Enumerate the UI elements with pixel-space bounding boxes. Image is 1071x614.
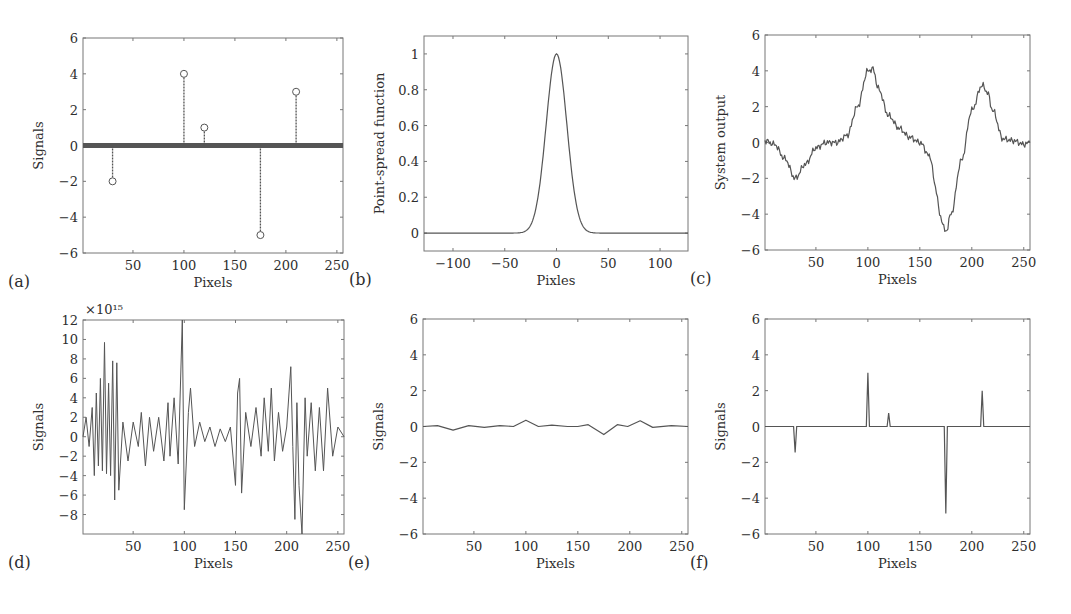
- y-axis-label: Signals: [31, 121, 46, 169]
- x-tick-label: 250: [325, 539, 350, 554]
- signal-line: [423, 420, 688, 434]
- stem-marker: [201, 124, 208, 131]
- figure: 50100150200250−6−4−20246PixelsSignals(a)…: [0, 0, 1071, 614]
- y-tick-label: −2: [741, 455, 760, 470]
- y-tick-label: 6: [752, 312, 760, 327]
- panel-d: 50100150200250−8−6−4−2024681012PixelsSig…: [8, 302, 350, 572]
- y-tick-label: 6: [752, 28, 760, 43]
- x-tick-label: 100: [648, 256, 673, 271]
- x-tick-label: 50: [808, 255, 825, 270]
- panel-label: (a): [8, 272, 30, 291]
- y-tick-label: 0: [752, 136, 760, 151]
- y-tick-label: −4: [59, 469, 78, 484]
- y-tick-label: −4: [741, 207, 760, 222]
- x-tick-label: 250: [1011, 255, 1036, 270]
- y-tick-label: 0: [70, 430, 78, 445]
- y-tick-label: −8: [59, 508, 78, 523]
- x-tick-label: 250: [1011, 539, 1036, 554]
- y-tick-label: −2: [741, 171, 760, 186]
- plot-area: [765, 67, 1030, 232]
- x-tick-label: 150: [223, 539, 248, 554]
- panel-f: 50100150200250−6−4−20246PixelsSignals(f): [690, 312, 1036, 572]
- y-tick-label: 10: [61, 332, 78, 347]
- y-tick-label: 0: [752, 420, 760, 435]
- x-tick-label: 100: [855, 255, 880, 270]
- stem-marker: [180, 70, 187, 77]
- y-tick-label: 4: [70, 391, 78, 406]
- axes-box: [424, 36, 688, 251]
- panel-c: 50100150200250−6−4−20246PixelsSystem out…: [690, 28, 1036, 288]
- signal-line: [83, 320, 344, 534]
- y-tick-label: 8: [70, 352, 78, 367]
- x-axis-label: Pixels: [536, 556, 575, 571]
- restored-signal: [765, 373, 1030, 514]
- x-tick-label: 50: [466, 539, 483, 554]
- y-tick-label: 0.4: [398, 154, 419, 169]
- x-tick-label: 100: [172, 539, 197, 554]
- panel-label: (d): [8, 553, 31, 572]
- panel-label: (c): [690, 269, 711, 288]
- x-axis-label: Pixels: [878, 556, 917, 571]
- y-tick-label: 2: [70, 103, 78, 118]
- y-tick-label: −6: [59, 246, 78, 261]
- y-axis-label: Point-spread function: [372, 72, 387, 214]
- panel-label: (f): [690, 553, 708, 572]
- y-tick-label: −4: [741, 491, 760, 506]
- y-tick-label: 2: [70, 410, 78, 425]
- x-tick-label: 200: [617, 539, 642, 554]
- x-tick-label: 200: [959, 539, 984, 554]
- plot-area: [83, 320, 344, 534]
- x-tick-label: 150: [907, 255, 932, 270]
- x-tick-label: 100: [513, 539, 538, 554]
- x-tick-label: 0: [552, 256, 560, 271]
- y-tick-label: 6: [70, 371, 78, 386]
- y-tick-label: −2: [59, 174, 78, 189]
- x-axis-label: Pixels: [194, 556, 233, 571]
- y-tick-label: −2: [59, 449, 78, 464]
- plot-area: [423, 420, 688, 434]
- psf-curve: [424, 54, 688, 233]
- y-tick-label: 1: [411, 47, 419, 62]
- stem-marker: [293, 88, 300, 95]
- x-tick-label: 250: [669, 539, 694, 554]
- x-tick-label: 50: [808, 539, 825, 554]
- panel-e: 50100150200250−6−4−20246PixelsSignals(e): [348, 312, 694, 572]
- x-tick-label: 100: [172, 258, 197, 273]
- y-exponent: ×10¹⁵: [85, 302, 123, 317]
- y-axis-label: Signals: [31, 403, 46, 451]
- y-tick-label: −4: [399, 491, 418, 506]
- x-axis-label: Pixels: [194, 275, 233, 290]
- y-tick-label: 4: [70, 67, 78, 82]
- y-axis-label: Signals: [713, 402, 728, 450]
- y-tick-label: 4: [752, 348, 760, 363]
- y-tick-label: 4: [410, 348, 418, 363]
- y-tick-label: −6: [59, 488, 78, 503]
- panel-label: (e): [348, 553, 370, 572]
- x-tick-label: 200: [959, 255, 984, 270]
- panel-b: −100−5005010000.20.40.60.81PixlesPoint-s…: [349, 36, 688, 289]
- y-axis-label: System output: [713, 94, 728, 190]
- x-tick-label: 50: [600, 256, 617, 271]
- plot-area: [765, 373, 1030, 514]
- plot-area: [83, 70, 343, 238]
- y-tick-label: 2: [752, 100, 760, 115]
- x-tick-label: −50: [491, 256, 518, 271]
- x-tick-label: 50: [125, 539, 142, 554]
- panel-a: 50100150200250−6−4−20246PixelsSignals(a): [8, 31, 349, 291]
- x-tick-label: 150: [565, 539, 590, 554]
- y-tick-label: 2: [410, 384, 418, 399]
- y-tick-label: 0.6: [398, 119, 419, 134]
- y-tick-label: 0.2: [398, 190, 419, 205]
- signal-line: [765, 67, 1030, 232]
- y-tick-label: −6: [741, 243, 760, 258]
- y-tick-label: 4: [752, 64, 760, 79]
- y-axis-label: Signals: [371, 402, 386, 450]
- y-tick-label: 0: [70, 139, 78, 154]
- axes-box: [765, 35, 1030, 250]
- y-tick-label: 0: [410, 420, 418, 435]
- x-tick-label: 50: [125, 258, 142, 273]
- stem-marker: [257, 232, 264, 239]
- x-tick-label: −100: [435, 256, 471, 271]
- x-tick-label: 100: [855, 539, 880, 554]
- y-tick-label: 12: [61, 313, 78, 328]
